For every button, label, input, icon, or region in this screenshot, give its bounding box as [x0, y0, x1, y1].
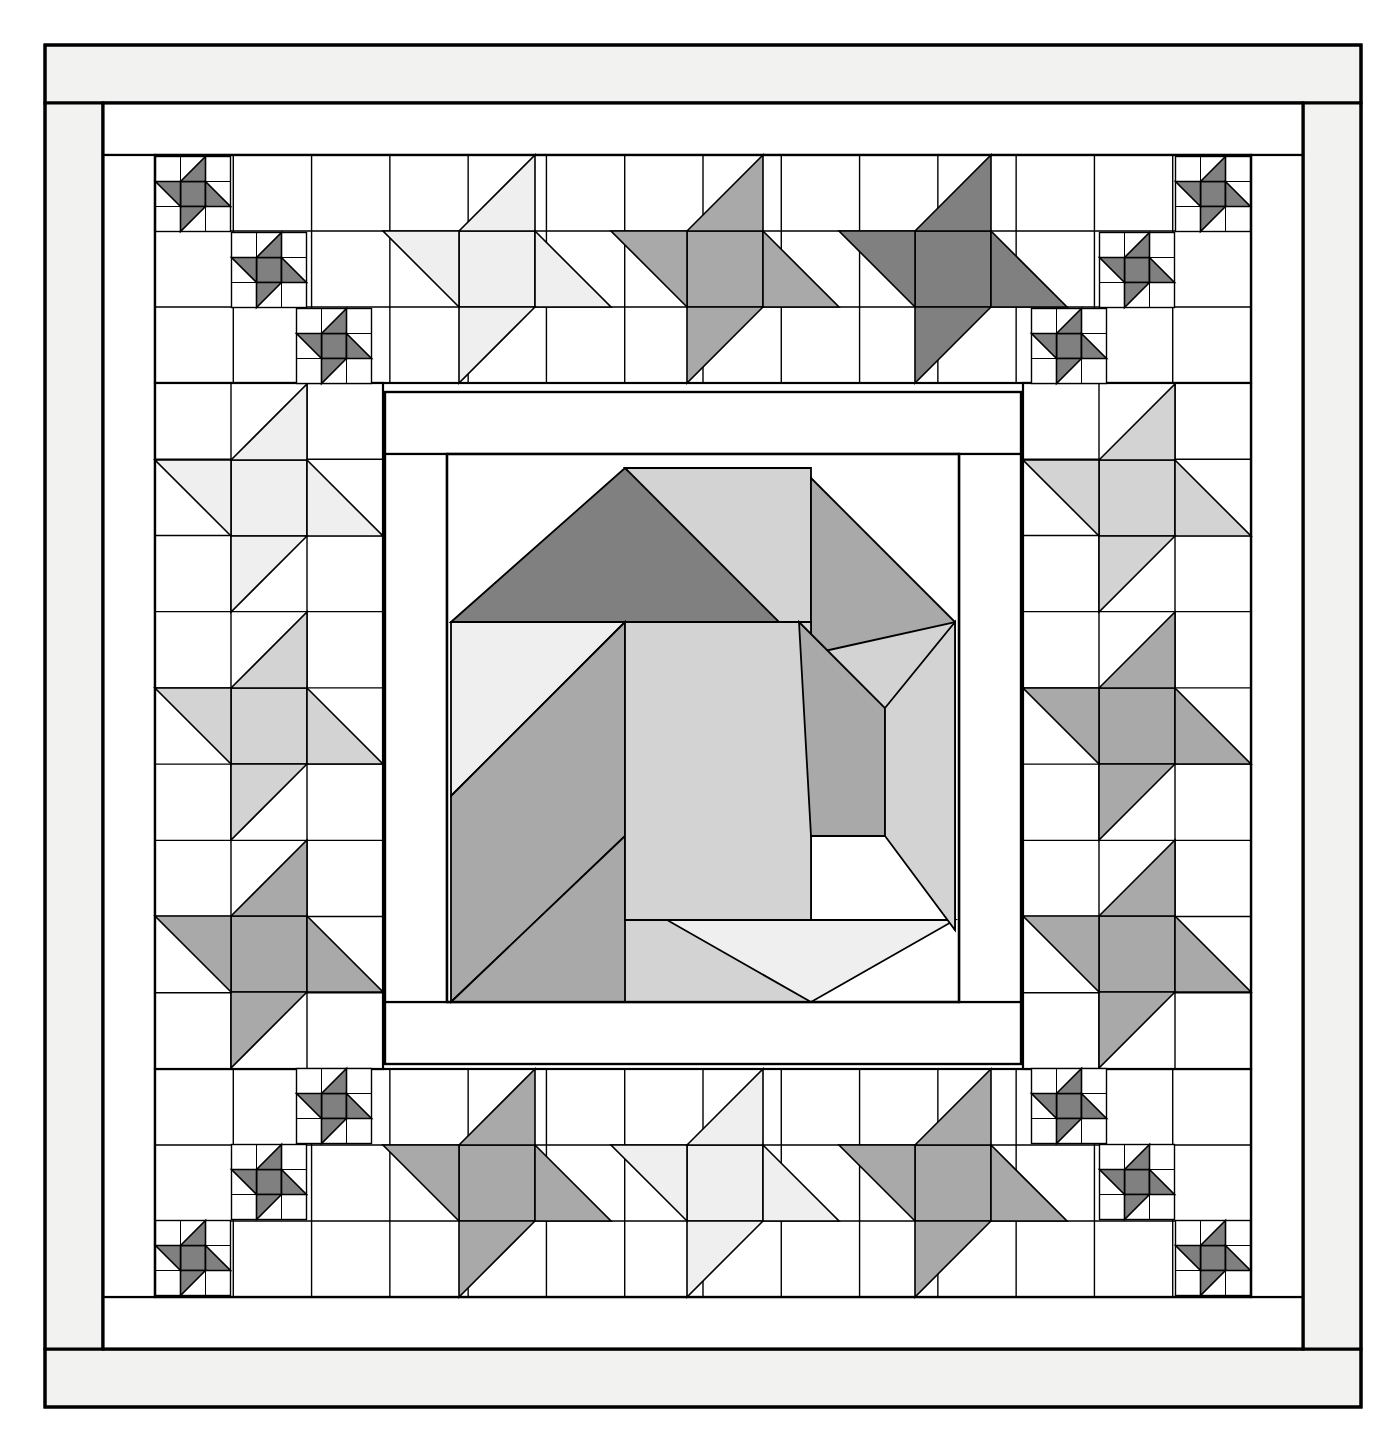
mini-star-tr-a-center	[1201, 182, 1226, 207]
mini-star-tl-c-center	[322, 334, 347, 359]
star-top-3-center	[915, 231, 991, 307]
star-right-1-center	[1099, 460, 1175, 536]
mini-star-tr-c-center	[1057, 334, 1082, 359]
star-top-1-center	[459, 231, 535, 307]
sashing-left	[385, 454, 447, 1002]
outer-border-left	[45, 103, 103, 1349]
star-left-3-center	[231, 916, 307, 992]
sashing-bottom	[385, 1002, 1021, 1064]
inner-frame-top	[103, 103, 1303, 155]
star-bottom-2-center	[687, 1145, 763, 1221]
mini-star-br-c-center	[1057, 1094, 1082, 1119]
star-bottom-3-center	[915, 1145, 991, 1221]
mini-star-tl-b-center	[257, 258, 282, 283]
mini-star-bl-b-center	[257, 1170, 282, 1195]
star-bottom-1-center	[459, 1145, 535, 1221]
mini-star-br-b-center	[1125, 1170, 1150, 1195]
sashing-right	[959, 454, 1021, 1002]
star-top-2-center	[687, 231, 763, 307]
inner-frame-bottom	[103, 1297, 1303, 1349]
mini-star-br-a-center	[1201, 1246, 1226, 1271]
mini-star-tr-b-center	[1125, 258, 1150, 283]
mini-star-bl-a-center	[181, 1246, 206, 1271]
quilt-pattern-diagram	[0, 0, 1396, 1444]
sashing-top	[385, 392, 1021, 454]
outer-border-bottom	[45, 1349, 1361, 1407]
mini-star-tl-a-center	[181, 182, 206, 207]
center-medallion-block	[447, 454, 959, 1002]
mini-star-bl-c-center	[322, 1094, 347, 1119]
star-left-1-center	[231, 460, 307, 536]
star-right-2-center	[1099, 688, 1175, 764]
outer-border-top	[45, 45, 1361, 103]
center-patch-center-light-square	[625, 622, 811, 920]
star-left-2-center	[231, 688, 307, 764]
inner-frame-left	[103, 155, 155, 1297]
inner-frame-right	[1251, 155, 1303, 1297]
star-right-3-center	[1099, 916, 1175, 992]
outer-border-right	[1303, 103, 1361, 1349]
